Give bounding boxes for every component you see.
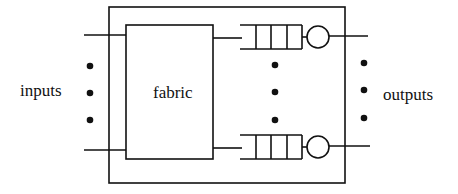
outputs-label: outputs (383, 85, 433, 104)
fabric-label: fabric (153, 83, 193, 102)
inputs-label: inputs (20, 81, 62, 100)
queue-ellipsis-dots (272, 62, 279, 124)
server-circle-bottom (307, 136, 329, 158)
output-ellipsis-dots (361, 60, 368, 122)
switch-diagram: inputs fabric outputs (0, 0, 458, 194)
output-queue-bottom (240, 135, 329, 159)
outer-switch-box (109, 7, 345, 183)
output-queue-top (240, 25, 329, 49)
server-circle-top (307, 26, 329, 48)
input-ellipsis-dots (87, 63, 94, 124)
